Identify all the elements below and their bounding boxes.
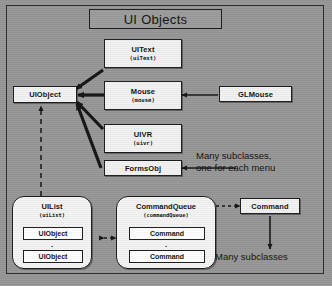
note-many-subclasses-commands: Many subclasses [215, 251, 288, 263]
node-uivr-class: UIVR [134, 130, 152, 139]
container-commandqueue[interactable]: CommandQueue (commandQueue) Command . Co… [116, 196, 216, 269]
node-formsobj-class: FormsObj [125, 164, 161, 173]
uilist-slot-1[interactable]: UIObject [23, 250, 83, 263]
node-formsobj[interactable]: FormsObj [104, 160, 182, 176]
container-commandqueue-header: CommandQueue (commandQueue) [117, 202, 215, 219]
node-uiobject[interactable]: UIObject [13, 86, 77, 103]
node-mouse-class: Mouse [131, 87, 155, 96]
node-command[interactable]: Command [240, 198, 300, 214]
container-uilist-header: UIList (uiList) [13, 202, 91, 219]
node-command-class: Command [251, 202, 288, 211]
container-commandqueue-instance: (commandQueue) [117, 211, 215, 219]
node-glmouse[interactable]: GLMouse [219, 86, 292, 102]
node-uitext-class: UIText [132, 45, 155, 54]
container-uilist-instance: (uiList) [13, 211, 91, 219]
container-commandqueue-class: CommandQueue [117, 202, 215, 211]
node-uitext[interactable]: UIText (uiText) [104, 39, 182, 68]
node-mouse-instance: (mouse) [131, 96, 155, 104]
diagram-title-label: UI Objects [124, 12, 188, 27]
node-uivr[interactable]: UIVR (uivr) [104, 124, 182, 153]
commandqueue-slot-0[interactable]: Command [129, 227, 205, 240]
diagram-title: UI Objects [89, 9, 222, 29]
commandqueue-slot-1[interactable]: Command [129, 250, 205, 263]
note-many-subclasses-menus: Many subclasses, one for each menu [196, 150, 275, 173]
commandqueue-ellipsis: . [117, 242, 215, 247]
container-uilist[interactable]: UIList (uiList) UIObject . UIObject [12, 196, 92, 269]
node-uivr-instance: (uivr) [133, 139, 153, 147]
node-uitext-instance: (uiText) [130, 54, 157, 62]
edge-uitext-to-uiobject [76, 70, 103, 89]
diagram-canvas: UI Objects UIObject UIText (uiText) Mous… [0, 0, 332, 286]
uilist-slot-0[interactable]: UIObject [23, 227, 83, 240]
node-mouse[interactable]: Mouse (mouse) [104, 81, 182, 110]
node-glmouse-class: GLMouse [238, 90, 273, 99]
uilist-ellipsis: . [13, 242, 91, 247]
container-uilist-class: UIList [13, 202, 91, 211]
node-uiobject-class: UIObject [29, 90, 61, 99]
